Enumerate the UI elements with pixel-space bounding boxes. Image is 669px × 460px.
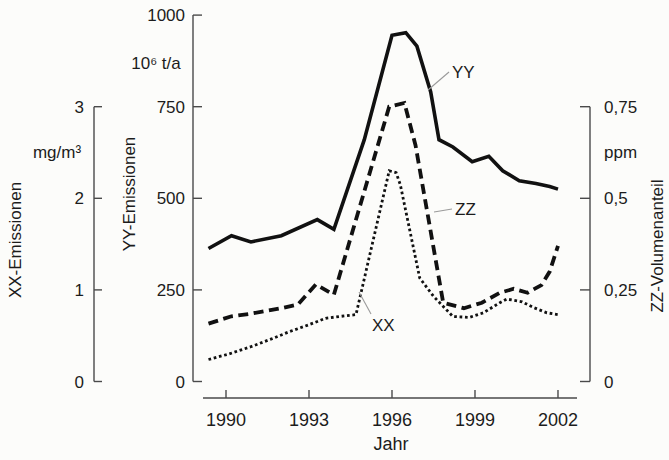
x-axis-title: Jahr [373, 434, 408, 454]
yy-axis-tick-label: 750 [157, 98, 185, 117]
zz-axis-tick-label: 0,25 [604, 281, 637, 300]
xx-axis-tick-label: 0 [75, 373, 84, 392]
yy-axis-unit: 10⁶ t/a [131, 54, 181, 73]
xx-axis-tick-label: 3 [75, 98, 84, 117]
yy-axis-title: YY-Emissionen [120, 137, 139, 252]
zz-axis-tick-label: 0,75 [604, 98, 637, 117]
zz-axis-unit: ppm [604, 143, 637, 162]
yy-axis-tick-label: 1000 [147, 6, 185, 25]
zz-series-label: ZZ [455, 200, 476, 219]
xx-axis-title: XX-Emissionen [6, 182, 25, 298]
x-axis-tick-label: 2002 [538, 410, 578, 430]
x-axis-tick-label: 1993 [289, 410, 329, 430]
x-axis-tick-label: 1990 [206, 410, 246, 430]
xx-series-label: XX [372, 316, 395, 335]
zz-axis-tick-label: 0 [604, 373, 613, 392]
zz-axis-title: ZZ-Volumenanteil [648, 179, 667, 312]
x-axis-tick-label: 1999 [455, 410, 495, 430]
xx-axis-tick-label: 2 [75, 189, 84, 208]
yy-axis-tick-label: 0 [176, 373, 185, 392]
yy-axis-tick-label: 250 [157, 281, 185, 300]
chart-canvas: 19901993199619992002Jahr3210mg/m³XX-Emis… [0, 0, 669, 460]
xx-axis-unit: mg/m³ [33, 143, 82, 162]
xx-axis-tick-label: 1 [75, 281, 84, 300]
x-axis-tick-label: 1996 [372, 410, 412, 430]
zz-axis-tick-label: 0,5 [604, 189, 628, 208]
yy-axis-tick-label: 500 [157, 189, 185, 208]
emissions-chart-figure: 19901993199619992002Jahr3210mg/m³XX-Emis… [0, 0, 669, 460]
yy-series-label: YY [452, 63, 475, 82]
